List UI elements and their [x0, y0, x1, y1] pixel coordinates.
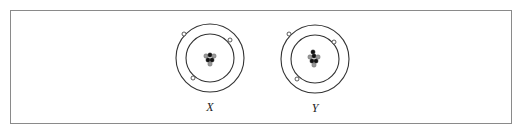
- atom-y-label: Y: [312, 101, 320, 115]
- electron: [287, 32, 291, 36]
- electron-shell-1: [186, 34, 234, 82]
- atom-y: [281, 25, 349, 93]
- neutron: [316, 55, 320, 59]
- neutron: [312, 63, 316, 67]
- atomic-structure-diagram: X Y: [0, 0, 522, 133]
- atom-x-label: X: [205, 100, 214, 114]
- proton: [312, 54, 316, 58]
- electron: [191, 76, 195, 80]
- proton: [210, 58, 214, 62]
- neutron: [212, 54, 216, 58]
- atom-x: [176, 24, 244, 92]
- proton: [314, 59, 318, 63]
- electron: [182, 32, 186, 36]
- neutron: [308, 55, 312, 59]
- nucleus: [308, 50, 320, 67]
- proton: [206, 58, 210, 62]
- proton: [208, 53, 212, 57]
- electron: [332, 40, 336, 44]
- proton: [311, 50, 315, 54]
- proton: [310, 59, 314, 63]
- electron: [295, 77, 299, 81]
- nucleus: [204, 53, 216, 66]
- neutron: [204, 54, 208, 58]
- electron: [228, 38, 232, 42]
- atoms-layer: [176, 24, 349, 93]
- neutron: [208, 62, 212, 66]
